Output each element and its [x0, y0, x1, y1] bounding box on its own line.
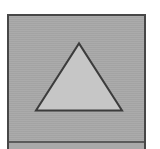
shape-panel — [7, 14, 146, 149]
triangle-graphic — [9, 16, 144, 149]
image-canvas — [0, 0, 160, 149]
triangle-icon — [36, 43, 122, 110]
panel-footer-strip — [9, 143, 144, 149]
